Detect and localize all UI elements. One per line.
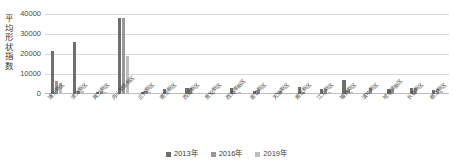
y-tick-label: 30000 [4, 30, 41, 38]
bar [193, 93, 196, 94]
y-tick-label: 40000 [4, 10, 41, 18]
y-axis-title: 平均形状指数 [3, 14, 16, 72]
x-tick-label: 金普新区 [247, 95, 269, 139]
bar [328, 92, 331, 94]
bar [283, 93, 286, 94]
x-tick-label: 西海岸新区 [225, 95, 247, 139]
x-tick-label: 滇中新区 [359, 95, 381, 139]
x-axis-labels: 浦东新区滨海新区两江新区舟山群岛新区兰州新区南沙新区西咸新区贵安新区西海岸新区金… [45, 95, 449, 139]
bar-group [67, 14, 89, 94]
bar [73, 42, 76, 94]
bar [171, 93, 174, 94]
bar [418, 93, 421, 94]
bar-group [292, 14, 314, 94]
y-tick-label: 0 [4, 90, 41, 98]
x-tick-label: 南沙新区 [157, 95, 179, 139]
legend-item[interactable]: 2019年 [255, 150, 287, 158]
bar [216, 93, 219, 94]
bar-group [337, 14, 359, 94]
x-tick-label: 赣江新区 [426, 95, 448, 139]
x-tick-label: 长春新区 [404, 95, 426, 139]
legend-label: 2019年 [263, 150, 287, 158]
y-tick-label: 20000 [4, 50, 41, 58]
bar-group [359, 14, 381, 94]
x-tick-label: 兰州新区 [135, 95, 157, 139]
x-tick-label: 西咸新区 [180, 95, 202, 139]
bar-group [426, 14, 448, 94]
x-tick-label: 滨海新区 [67, 95, 89, 139]
x-tick-label: 哈尔滨新区 [382, 95, 404, 139]
bar-group [404, 14, 426, 94]
bar-group [135, 14, 157, 94]
legend-swatch-icon [166, 152, 171, 157]
legend-label: 2013年 [174, 150, 198, 158]
legend-item[interactable]: 2013年 [166, 150, 198, 158]
bar-group [247, 14, 269, 94]
bar-group [202, 14, 224, 94]
bar-group [180, 14, 202, 94]
x-tick-label: 舟山群岛新区 [112, 95, 134, 139]
x-tick-label: 天府新区 [269, 95, 291, 139]
bar [260, 93, 263, 94]
chart-legend: 2013年2016年2019年 [0, 150, 453, 158]
bar [305, 93, 308, 94]
bar-group [157, 14, 179, 94]
x-tick-label: 湘江新区 [292, 95, 314, 139]
legend-swatch-icon [211, 152, 216, 157]
bar-group [269, 14, 291, 94]
legend-swatch-icon [255, 152, 260, 157]
x-tick-label: 江北新区 [314, 95, 336, 139]
legend-item[interactable]: 2016年 [211, 150, 243, 158]
bar-chart: 平均形状指数 010000200003000040000 浦东新区滨海新区两江新… [0, 0, 453, 164]
x-tick-label: 福州新区 [337, 95, 359, 139]
x-tick-label: 贵安新区 [202, 95, 224, 139]
x-tick-label: 两江新区 [90, 95, 112, 139]
bar [238, 92, 241, 94]
bar-group [314, 14, 336, 94]
legend-label: 2016年 [219, 150, 243, 158]
bar-group [90, 14, 112, 94]
y-tick-label: 10000 [4, 70, 41, 78]
bar [373, 93, 376, 94]
bar [103, 92, 106, 94]
x-tick-label: 浦东新区 [45, 95, 67, 139]
bar [395, 93, 398, 94]
bar [118, 18, 121, 94]
bar-group [45, 14, 67, 94]
